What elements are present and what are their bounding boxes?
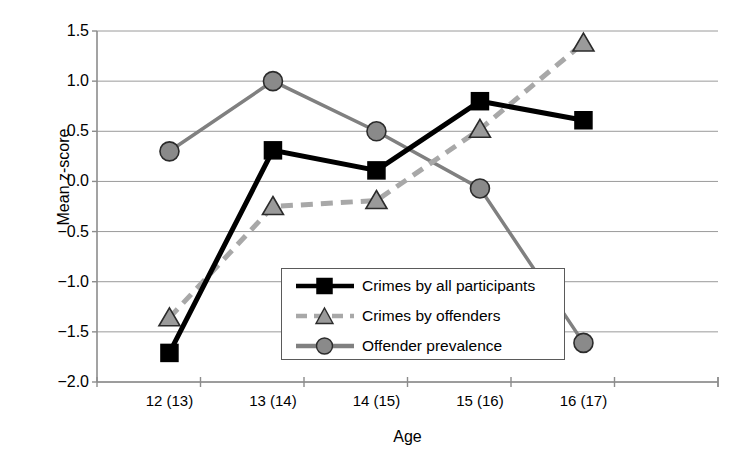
y-tick-label: 1.5 [35,23,89,39]
chart-legend: Crimes by all participants Crimes by off… [281,268,565,360]
x-tick-label: 16 (17) [523,392,643,409]
data-point-marker [471,93,488,110]
data-point-marker [470,179,489,198]
legend-item-offender-prevalence[interactable]: Offender prevalence [282,331,566,361]
data-point-marker [574,333,593,352]
legend-swatch-square-icon [294,275,356,297]
legend-swatch-circle-icon [294,335,356,357]
data-point-marker [262,197,283,215]
data-point-marker [160,142,179,161]
y-tick-label: 0.0 [35,173,89,189]
data-point-marker [575,112,592,129]
data-point-marker [263,72,282,91]
y-tick-label: 0.5 [35,123,89,139]
data-point-marker [368,162,385,179]
legend-label: Offender prevalence [362,337,502,355]
y-tick-label: −1.0 [35,274,89,290]
legend-label: Crimes by offenders [362,307,500,325]
x-tick-label: 13 (14) [213,392,333,409]
legend-item-crimes-by-offenders[interactable]: Crimes by offenders [282,301,566,331]
x-tick-label: 12 (13) [109,392,229,409]
data-point-marker [367,122,386,141]
x-tick-label: 15 (16) [420,392,540,409]
chart-figure: Mean z-score Age 1.51.00.50.0−0.5−1.0−1.… [0,0,737,467]
y-tick-label: −2.0 [35,374,89,390]
legend-swatch-triangle-icon [294,305,356,327]
data-point-marker [573,33,594,51]
legend-item-crimes-by-all-participants[interactable]: Crimes by all participants [282,271,566,301]
data-point-marker [264,142,281,159]
legend-label: Crimes by all participants [362,277,535,295]
data-point-marker [161,344,178,361]
x-axis-title: Age [97,428,718,446]
y-tick-label: −0.5 [35,224,89,240]
x-tick-label: 14 (15) [316,392,436,409]
y-tick-label: 1.0 [35,73,89,89]
y-tick-label: −1.5 [35,324,89,340]
